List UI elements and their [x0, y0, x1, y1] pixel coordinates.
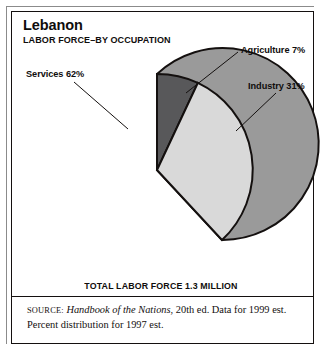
callout-label-agriculture: Agriculture 7%: [241, 45, 305, 55]
figure-pie-chart-lebanon-labor-force: Lebanon LABOR FORCE–BY OCCUPATION Servic…: [0, 0, 322, 352]
callout-label-industry: Industry 31%: [248, 81, 305, 91]
source-distribution-text: Percent distribution for 1997 est.: [27, 319, 164, 330]
leader-line-services: [74, 82, 128, 129]
total-labor-force-label: TOTAL LABOR FORCE 1.3 MILLION: [8, 281, 314, 291]
source-edition-text: , 20th ed. Data for 1999 est.: [171, 304, 287, 315]
source-publication-title: Handbook of the Nations: [66, 304, 170, 315]
callout-label-services: Services 62%: [26, 69, 84, 79]
source-divider: [12, 296, 313, 297]
source-label: SOURCE:: [27, 306, 64, 315]
source-note: SOURCE: Handbook of the Nations, 20th ed…: [27, 303, 295, 331]
